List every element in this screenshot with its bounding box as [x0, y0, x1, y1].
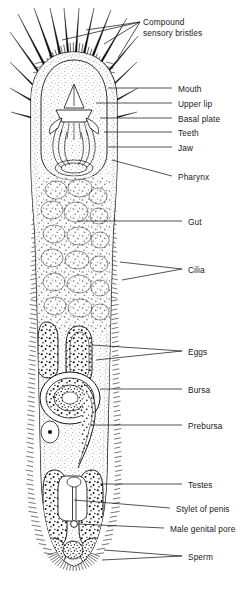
gut-region [38, 176, 110, 332]
label-eggs: Eggs [188, 347, 207, 358]
egg-left [38, 322, 58, 378]
label-mouth: Mouth [178, 84, 202, 95]
stylet-bulb [67, 477, 81, 487]
label-compound-sensory-bristles: Compound sensory bristles [143, 17, 202, 38]
label-bursa: Bursa [188, 385, 210, 396]
sperm-mass-center [63, 541, 83, 559]
tail-region [41, 470, 105, 564]
label-testes: Testes [188, 480, 213, 491]
label-jaw: Jaw [178, 143, 193, 154]
label-sperm: Sperm [188, 552, 213, 563]
male-genital-pore-shape [71, 521, 78, 528]
label-gut: Gut [188, 217, 202, 228]
label-preursa: Prebursa [188, 421, 222, 432]
label-cilia: Cilia [188, 265, 205, 276]
label-stylet-of-penis: Stylet of penis [176, 504, 230, 515]
sperm-mass-right [80, 538, 105, 564]
label-pharynx: Pharynx [178, 172, 209, 183]
label-upper-lip: Upper lip [178, 99, 212, 110]
label-teeth: Teeth [178, 128, 199, 139]
label-basal-plate: Basal plate [178, 114, 220, 125]
label-male-genital-pore: Male genital pore [170, 524, 235, 535]
bursa-core [62, 392, 78, 404]
